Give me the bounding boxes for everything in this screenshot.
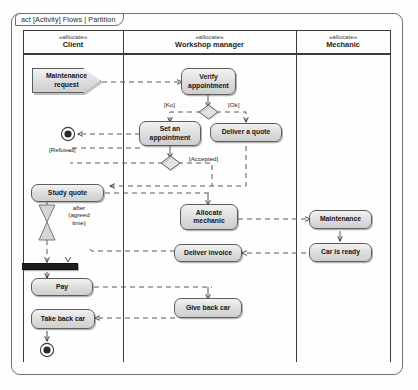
set-an-appointment-line1: Set an bbox=[148, 125, 193, 133]
car-is-ready-label: Car is ready bbox=[319, 248, 362, 256]
node-give-back-car[interactable]: Give back car bbox=[174, 298, 242, 318]
allocate-mechanic-line1: Allocate bbox=[191, 209, 226, 217]
activity-diagram-canvas: act [Activity] Flows | Partition «alloca… bbox=[0, 0, 418, 390]
maintenance-request-line1: Maintenance bbox=[46, 72, 87, 79]
node-car-is-ready[interactable]: Car is ready bbox=[309, 243, 372, 262]
diagram-tab[interactable]: act [Activity] Flows | Partition bbox=[15, 13, 124, 26]
lane-border-left bbox=[23, 30, 24, 362]
node-deliver-invoice[interactable]: Deliver invoice bbox=[174, 244, 242, 262]
lane-border-right bbox=[390, 30, 391, 362]
lane-title-workshop-manager: Workshop manager bbox=[175, 41, 244, 49]
lane-header-client: «allocate» Client bbox=[23, 30, 123, 54]
lane-divider-client-workshop bbox=[123, 30, 124, 362]
lane-title-client: Client bbox=[63, 41, 84, 49]
node-take-back-car[interactable]: Take back car bbox=[31, 309, 95, 329]
lane-divider-workshop-mechanic bbox=[296, 30, 297, 362]
guard-ko: [Ko] bbox=[164, 101, 175, 108]
node-deliver-a-quote[interactable]: Deliver a quote bbox=[210, 123, 282, 142]
give-back-car-label: Give back car bbox=[184, 304, 232, 312]
time-event-line1: after bbox=[59, 204, 99, 211]
guard-ok: [Ok] bbox=[228, 101, 239, 108]
join-bar[interactable] bbox=[22, 263, 78, 270]
node-verify-appointment[interactable]: Verify appointment bbox=[181, 68, 236, 95]
time-event-line2: (agreed bbox=[59, 211, 99, 218]
take-back-car-label: Take back car bbox=[39, 315, 87, 323]
node-maintenance[interactable]: Maintenance bbox=[309, 210, 372, 229]
guard-refused: [Refused] bbox=[49, 146, 75, 153]
node-allocate-mechanic[interactable]: Allocate mechanic bbox=[180, 204, 238, 230]
allocate-mechanic-line2: mechanic bbox=[191, 217, 226, 225]
pay-label: Pay bbox=[54, 283, 70, 291]
deliver-invoice-label: Deliver invoice bbox=[182, 249, 234, 257]
lane-header-rule bbox=[23, 54, 391, 55]
set-an-appointment-line2: appointment bbox=[148, 134, 193, 142]
activity-final-refused[interactable] bbox=[58, 124, 78, 144]
node-study-quote[interactable]: Study quote bbox=[31, 184, 104, 202]
study-quote-label: Study quote bbox=[46, 189, 89, 197]
maintenance-label: Maintenance bbox=[318, 215, 363, 223]
lane-title-mechanic: Mechanic bbox=[326, 41, 360, 49]
merge-node-accepted[interactable] bbox=[160, 155, 181, 171]
diagram-tab-label: act [Activity] Flows | Partition bbox=[21, 15, 116, 24]
activity-final-end[interactable] bbox=[37, 340, 57, 360]
deliver-a-quote-label: Deliver a quote bbox=[220, 128, 273, 136]
verify-appointment-line1: Verify bbox=[186, 73, 231, 81]
time-event-hourglass-icon bbox=[36, 203, 58, 243]
maintenance-request-line2: request bbox=[54, 81, 79, 88]
node-pay[interactable]: Pay bbox=[31, 278, 93, 296]
time-event-line3: time) bbox=[59, 219, 99, 226]
lane-header-mechanic: «allocate» Mechanic bbox=[296, 30, 390, 54]
verify-appointment-line2: appointment bbox=[186, 82, 231, 90]
time-event-label: after (agreed time) bbox=[59, 204, 99, 226]
node-set-an-appointment[interactable]: Set an appointment bbox=[139, 121, 201, 146]
lane-header-workshop-manager: «allocate» Workshop manager bbox=[123, 30, 296, 54]
decision-node-ok-ko[interactable] bbox=[198, 104, 219, 120]
guard-accepted: [Accepted] bbox=[189, 155, 218, 162]
